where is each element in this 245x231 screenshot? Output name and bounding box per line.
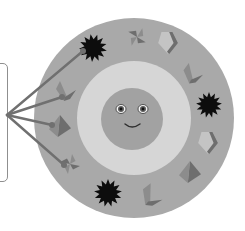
connector-endpoint <box>61 162 67 168</box>
face-circle <box>101 88 163 150</box>
left-eye <box>116 105 126 114</box>
right-eye <box>138 105 148 114</box>
connector-endpoint <box>80 48 86 54</box>
wheel-diagram <box>0 0 245 231</box>
connector-endpoint <box>59 94 65 100</box>
smiley-face <box>101 88 163 150</box>
connector-endpoint <box>49 122 55 128</box>
